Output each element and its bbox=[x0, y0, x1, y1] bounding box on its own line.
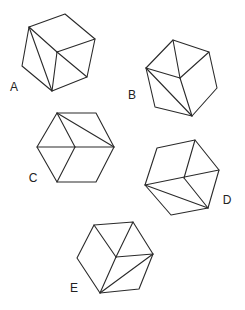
hexagon-outline bbox=[22, 14, 95, 91]
hexagon-figure-b bbox=[146, 40, 217, 116]
hexagon-figure-e bbox=[77, 222, 153, 293]
inner-edge bbox=[116, 254, 153, 257]
hexagon-figure-a bbox=[22, 14, 95, 91]
option-label-c: C bbox=[29, 172, 38, 184]
hexagon-figure-d bbox=[145, 140, 219, 215]
inner-edge bbox=[173, 40, 180, 78]
inner-edge bbox=[180, 52, 209, 78]
inner-edge bbox=[94, 225, 116, 257]
inner-edge bbox=[57, 39, 95, 52]
inner-edge bbox=[57, 52, 87, 77]
option-label-e: E bbox=[70, 282, 78, 294]
inner-edge bbox=[184, 140, 195, 178]
option-label-b: B bbox=[128, 89, 136, 101]
diagram-svg bbox=[0, 0, 245, 310]
inner-edge bbox=[145, 170, 219, 185]
hexagon-options-diagram: A B C D E bbox=[0, 0, 245, 310]
option-label-a: A bbox=[10, 81, 18, 93]
option-label-d: D bbox=[223, 194, 232, 206]
hexagon-figure-c bbox=[37, 113, 114, 182]
inner-edge bbox=[116, 222, 133, 257]
inner-edge bbox=[57, 147, 75, 182]
inner-edge bbox=[52, 52, 57, 91]
